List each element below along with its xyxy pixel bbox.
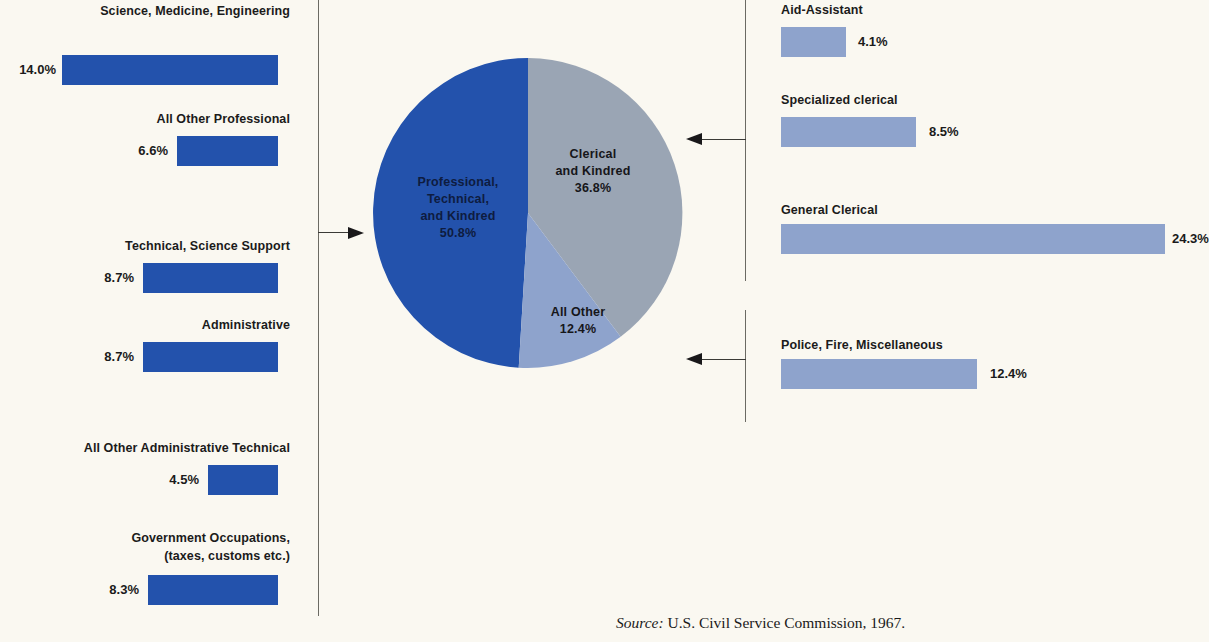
bar-fill-all-other-administrative-technical [208,465,278,495]
pie-label-professional-line3: and Kindred [383,208,533,225]
bar-fill-science-medicine-engineering [62,55,278,85]
bar-fill-police-fire-miscellaneous [781,359,977,389]
bar-label-specialized-clerical: Specialized clerical [781,93,898,108]
bar-label-all-other-administrative-technical: All Other Administrative Technical [0,441,290,456]
right-divider-rule-clerical [745,0,746,281]
bar-fill-administrative [143,342,278,372]
pie-label-professional: Professional, Technical, and Kindred 50.… [383,174,533,242]
pie-label-clerical-line2: and Kindred [528,163,658,180]
pie-value-clerical: 36.8% [528,180,658,197]
bar-fill-aid-assistant [781,27,846,57]
bar-fill-government-occupations [148,575,278,605]
bar-value-specialized-clerical: 8.5% [929,124,959,139]
bar-value-aid-assistant: 4.1% [858,34,888,49]
connector-arrowhead-right-all-other [686,353,702,365]
bar-fill-technical-science-support [143,263,278,293]
bar-label-all-other-professional: All Other Professional [0,112,290,127]
bar-label-government-occupations-line2: (taxes, customs etc.) [0,549,290,564]
pie-label-all-other: All Other 12.4% [518,304,638,338]
connector-arrowhead-left [348,227,364,239]
bar-label-government-occupations-line1: Government Occupations, [0,531,290,546]
bar-fill-specialized-clerical [781,117,916,147]
bar-label-police-fire-miscellaneous: Police, Fire, Miscellaneous [781,338,943,353]
pie-value-professional: 50.8% [383,225,533,242]
bar-value-government-occupations: 8.3% [81,582,139,597]
bar-label-general-clerical: General Clerical [781,203,878,218]
left-divider-rule [318,0,319,616]
bar-fill-general-clerical [781,224,1165,254]
bar-label-science-medicine-engineering: Science, Medicine, Engineering [0,4,290,19]
source-text: U.S. Civil Service Commission, 1967. [668,614,906,631]
bar-label-administrative: Administrative [0,318,290,333]
bar-label-aid-assistant: Aid-Assistant [781,3,863,18]
pie-label-professional-line1: Professional, [383,174,533,191]
bar-value-general-clerical: 24.3% [1172,231,1209,246]
bar-value-administrative: 8.7% [76,349,134,364]
bar-value-all-other-administrative-technical: 4.5% [141,472,199,487]
pie-value-all-other: 12.4% [518,321,638,338]
bar-value-police-fire-miscellaneous: 12.4% [990,366,1027,381]
connector-line-right-clerical [700,139,746,140]
pie-label-clerical: Clerical and Kindred 36.8% [528,146,658,197]
bar-value-technical-science-support: 8.7% [76,270,134,285]
right-divider-rule-all-other [745,310,746,422]
pie-label-all-other-line1: All Other [518,304,638,321]
bar-value-all-other-professional: 6.6% [110,143,168,158]
bar-value-science-medicine-engineering: 14.0% [0,62,56,77]
bar-label-technical-science-support: Technical, Science Support [0,239,290,254]
source-note: Source: U.S. Civil Service Commission, 1… [616,614,905,632]
bar-fill-all-other-professional [177,136,278,166]
connector-line-left [318,232,352,233]
chart-canvas: Science, Medicine, Engineering 14.0% All… [0,0,1209,642]
connector-line-right-all-other [700,359,746,360]
pie-label-clerical-line1: Clerical [528,146,658,163]
pie-chart: Professional, Technical, and Kindred 50.… [373,58,683,368]
pie-label-professional-line2: Technical, [383,191,533,208]
connector-arrowhead-right-clerical [686,133,702,145]
source-prefix: Source: [616,614,664,631]
